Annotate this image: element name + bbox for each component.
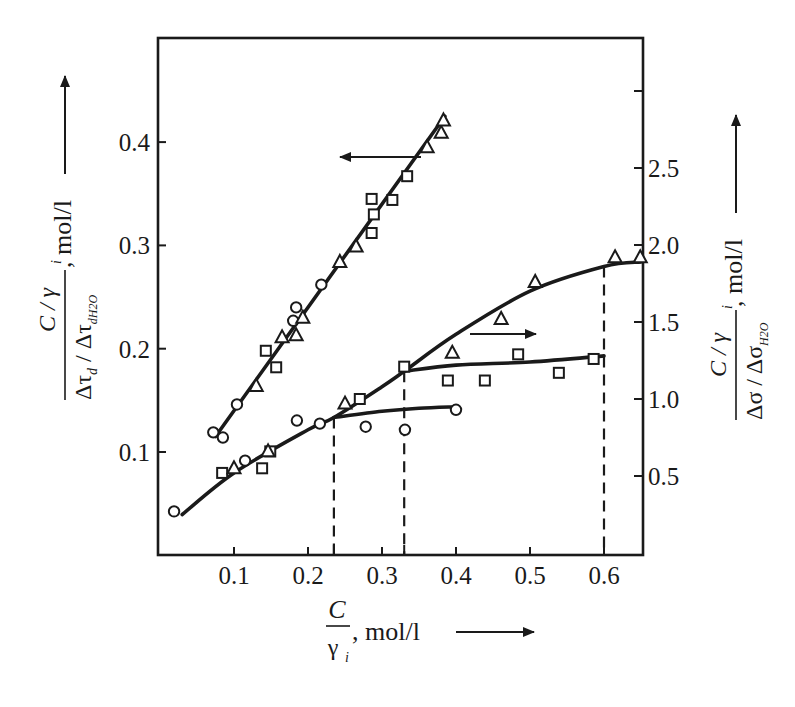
square-marker — [367, 194, 377, 204]
square-marker — [443, 376, 453, 386]
square-marker — [399, 362, 409, 372]
right-y-tick-label: 1.5 — [648, 309, 679, 336]
x-tick-label: 0.2 — [292, 562, 323, 589]
square-marker — [554, 368, 564, 378]
square-marker — [513, 349, 523, 359]
circle-marker — [232, 399, 242, 409]
x-label-unit: , mol/l — [352, 617, 420, 646]
x-tick-label: 0.4 — [440, 562, 472, 589]
circle-marker — [361, 422, 371, 432]
triangle-marker — [339, 397, 352, 409]
x-tick-label: 0.6 — [588, 562, 619, 589]
plot-frame — [158, 38, 643, 555]
right-label-unit: , mol/l — [719, 239, 748, 307]
triangle-marker — [634, 250, 647, 262]
square-marker — [480, 376, 490, 386]
triangle-marker — [609, 250, 622, 262]
circle-marker — [400, 425, 410, 435]
x-label-denominator: γ — [327, 634, 339, 660]
circle-marker — [291, 302, 301, 312]
left-label-denominator: Δτd / ΔτdH2O — [70, 295, 100, 400]
left-label-unit: , mol/l — [48, 200, 77, 268]
x-tick-label: 0.5 — [514, 562, 545, 589]
square-marker — [257, 463, 267, 473]
data-points — [169, 113, 647, 516]
right-label-numerator: C / γ — [705, 332, 731, 377]
triangle-marker — [228, 461, 241, 473]
triangle-marker — [529, 275, 542, 287]
left-y-tick-label: 0.1 — [119, 439, 150, 466]
right-y-tick-label: 2.0 — [648, 232, 679, 259]
square-marker — [367, 228, 377, 238]
triangle-marker — [495, 312, 508, 324]
left-y-tick-label: 0.4 — [119, 129, 151, 156]
square-marker — [369, 209, 379, 219]
x-tick-label: 0.1 — [218, 562, 249, 589]
left-y-tick-label: 0.3 — [119, 232, 150, 259]
right-y-axis-label: C / γ i Δσ / ΔσH2O , mol/l — [705, 115, 771, 420]
circle-marker — [240, 455, 250, 465]
circle-marker — [292, 415, 302, 425]
right-y-axis-ticks: 0.51.01.52.02.5 — [634, 91, 679, 490]
circle-marker — [451, 405, 461, 415]
right-y-tick-label: 0.5 — [648, 463, 679, 490]
square-marker — [387, 195, 397, 205]
square-marker — [271, 362, 281, 372]
x-axis-ticks: 0.10.20.30.40.50.6 — [218, 545, 619, 589]
circle-marker — [169, 506, 179, 516]
square-marker — [261, 346, 271, 356]
square-marker — [217, 468, 227, 478]
x-tick-label: 0.3 — [366, 562, 397, 589]
left-y-tick-label: 0.2 — [119, 336, 150, 363]
chart-canvas: 0.10.20.30.40.50.6 0.10.20.30.4 0.51.01.… — [0, 0, 795, 707]
right-y-tick-label: 1.0 — [648, 386, 679, 413]
x-label-denominator-sub: i — [345, 650, 349, 665]
triangle-marker — [437, 113, 450, 125]
fitted-curve — [404, 356, 604, 371]
x-label-numerator: C — [328, 595, 346, 624]
left-label-numerator: C / γ — [34, 287, 60, 332]
right-y-tick-label: 2.5 — [648, 155, 679, 182]
circle-marker — [218, 432, 228, 442]
left-y-axis-label: C / γ i Δτd / ΔτdH2O , mol/l — [34, 76, 100, 400]
triangle-marker — [446, 346, 459, 358]
square-marker — [402, 171, 412, 181]
circle-marker — [316, 279, 326, 289]
square-marker — [355, 394, 365, 404]
circle-marker — [315, 418, 325, 428]
square-marker — [589, 354, 599, 364]
x-axis-label: C γ i , mol/l — [326, 595, 534, 665]
right-label-denominator: Δσ / ΔσH2O — [741, 322, 771, 420]
